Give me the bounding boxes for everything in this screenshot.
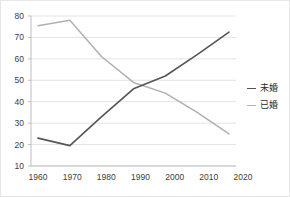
x-tick-label: 1970 [55, 173, 89, 182]
y-tick-label: 50 [4, 76, 24, 85]
y-tick-label: 80 [4, 12, 24, 21]
x-tick-label: 2010 [192, 173, 226, 182]
legend-label: 未婚 [260, 84, 278, 93]
x-tick-label: 1990 [124, 173, 158, 182]
y-tick-label: 40 [4, 98, 24, 107]
legend-swatch-icon [247, 88, 256, 89]
x-tick-label: 1960 [21, 173, 55, 182]
series-line-unmarried [38, 32, 229, 146]
line-chart: 80 70 60 50 40 30 20 10 1960 1970 1980 1… [0, 0, 290, 197]
y-tick-label: 10 [4, 162, 24, 171]
legend-swatch-icon [247, 105, 256, 106]
y-tick-label: 70 [4, 33, 24, 42]
legend-item-unmarried[interactable]: 未婚 [247, 83, 278, 94]
x-tick-label: 2020 [226, 173, 260, 182]
y-tick-label: 60 [4, 55, 24, 64]
x-tick-label: 2000 [158, 173, 192, 182]
legend-item-married[interactable]: 已婚 [247, 100, 278, 111]
legend-label: 已婚 [260, 101, 278, 110]
x-tick-label: 1980 [89, 173, 123, 182]
y-tick-label: 30 [4, 119, 24, 128]
chart-legend: 未婚 已婚 [247, 83, 278, 111]
y-tick-label: 20 [4, 141, 24, 150]
